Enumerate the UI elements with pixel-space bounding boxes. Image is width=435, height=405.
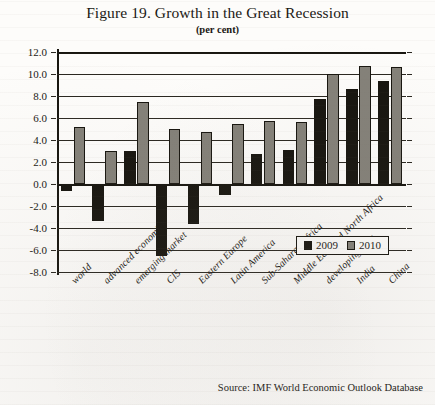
bar (283, 150, 295, 184)
y-axis-label: 2.0 (33, 156, 47, 168)
y-axis-label: 6.0 (33, 112, 47, 124)
legend-label-2010: 2010 (359, 239, 381, 251)
y-tick-0.0 (51, 184, 56, 185)
figure-page: Figure 19. Growth in the Great Recession… (0, 0, 435, 405)
bar (137, 102, 149, 185)
gridline-10.0 (57, 74, 406, 75)
y-tick--4.0 (51, 228, 56, 229)
bar (124, 151, 136, 184)
y-axis-label: 8.0 (33, 90, 47, 102)
y-tick-right--2.0 (407, 206, 412, 207)
y-tick-right-0.0 (407, 184, 412, 185)
bar (232, 124, 244, 185)
bar (61, 184, 73, 191)
bar (346, 89, 358, 184)
y-axis-label: 10.0 (28, 68, 47, 80)
bar (219, 184, 231, 195)
y-tick-right-6.0 (407, 118, 412, 119)
gridline-0.0 (57, 184, 406, 186)
legend-label-2009: 2009 (316, 239, 338, 251)
bar (378, 81, 390, 184)
gridline-12.0 (57, 52, 406, 54)
figure-title: Figure 19. Growth in the Great Recession (0, 4, 435, 22)
legend-swatch-2009 (304, 241, 312, 250)
figure-subtitle: (per cent) (0, 24, 435, 35)
chart-legend: 2009 2010 (296, 236, 389, 255)
bar (359, 66, 371, 184)
y-tick-right--8.0 (407, 272, 412, 273)
y-tick-right-10.0 (407, 74, 412, 75)
bar (391, 67, 403, 184)
bar (92, 184, 104, 221)
y-axis-label: 0.0 (33, 178, 47, 190)
y-tick--2.0 (51, 206, 56, 207)
gridline--2.0 (57, 206, 406, 207)
y-tick-2.0 (51, 162, 56, 163)
y-tick-right-2.0 (407, 162, 412, 163)
y-tick-12.0 (51, 52, 56, 53)
bar (201, 132, 213, 184)
bar (74, 127, 86, 184)
legend-swatch-2010 (347, 241, 355, 250)
bar (264, 121, 276, 184)
y-tick-right-4.0 (407, 140, 412, 141)
y-axis-label: -4.0 (30, 222, 47, 234)
y-tick-right-12.0 (407, 52, 412, 53)
y-axis-label: -6.0 (30, 244, 47, 256)
y-tick--6.0 (51, 250, 56, 251)
y-axis-label: -8.0 (30, 266, 47, 278)
legend-item-2010: 2010 (347, 239, 381, 251)
bar (296, 122, 308, 184)
source-note: Source: IMF World Economic Outlook Datab… (218, 382, 423, 393)
bar (105, 151, 117, 184)
y-tick-6.0 (51, 118, 56, 119)
legend-item-2009: 2009 (304, 239, 338, 251)
bar (169, 129, 181, 184)
y-axis-label: 12.0 (28, 46, 47, 58)
bar (314, 99, 326, 184)
y-tick-8.0 (51, 96, 56, 97)
y-tick-right--6.0 (407, 250, 412, 251)
y-axis-label: 4.0 (33, 134, 47, 146)
bar (251, 154, 263, 184)
y-tick-10.0 (51, 74, 56, 75)
y-tick-4.0 (51, 140, 56, 141)
bar (327, 74, 339, 184)
bar (188, 184, 200, 224)
y-tick--8.0 (51, 272, 56, 273)
y-axis-label: -2.0 (30, 200, 47, 212)
y-tick-right--4.0 (407, 228, 412, 229)
y-tick-right-8.0 (407, 96, 412, 97)
